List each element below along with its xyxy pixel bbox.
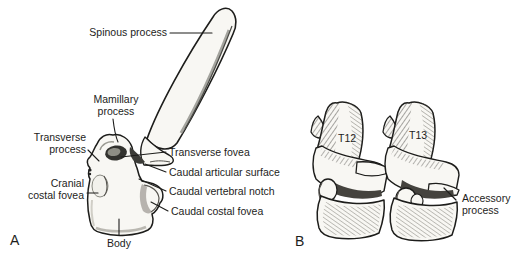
label-mamillary-process: Mamillary process (90, 94, 142, 118)
vertebra-t12-shape (311, 102, 389, 239)
panel-b-letter: B (295, 233, 304, 249)
label-caudal-vertebral-notch: Caudal vertebral notch (169, 186, 275, 198)
label-body: Body (101, 238, 137, 250)
label-t12: T12 (338, 133, 356, 145)
label-transverse-process: Transverse process (30, 132, 86, 156)
label-cranial-costal-fovea: Cranial costal fovea (22, 178, 84, 202)
label-t13: T13 (409, 130, 427, 142)
panel-a-letter: A (10, 232, 19, 248)
label-caudal-articular-surface: Caudal articular surface (169, 167, 280, 179)
label-spinous-process: Spinous process (77, 27, 167, 39)
label-caudal-costal-fovea: Caudal costal fovea (171, 206, 263, 218)
foramen-dot (88, 168, 91, 171)
vertebra-t13-shape (383, 102, 459, 241)
figure-canvas: Spinous process Mamillary process Transv… (0, 0, 515, 257)
label-transverse-fovea: Transverse fovea (169, 147, 250, 159)
foramen-dot (89, 173, 91, 175)
label-accessory-process: Accessory process (462, 193, 514, 217)
panel-a-vertebra-drawing (87, 8, 236, 235)
panel-b-vertebrae-drawing (311, 102, 459, 241)
